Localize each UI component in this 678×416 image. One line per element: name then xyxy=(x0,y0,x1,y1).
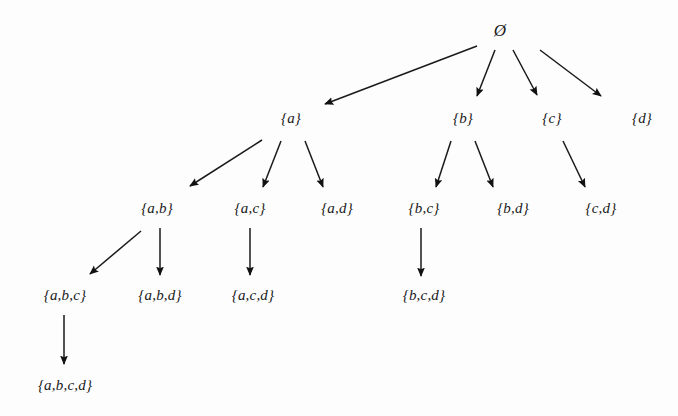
node-d: {d} xyxy=(632,111,652,126)
edge-arrow-a-ac xyxy=(263,141,281,187)
edge-arrow-empty-c xyxy=(513,50,537,95)
node-b: {b} xyxy=(453,111,473,126)
node-acd: {a,c,d} xyxy=(232,288,275,303)
subset-lattice-diagram: Ø{a}{b}{c}{d}{a,b}{a,c}{a,d}{b,c}{b,d}{c… xyxy=(0,0,678,416)
node-bc: {b,c} xyxy=(409,201,440,216)
node-bd: {b,d} xyxy=(497,201,529,216)
edge-arrow-b-bc xyxy=(436,141,451,187)
edge-arrow-a-ab xyxy=(190,140,262,186)
node-bcd: {b,c,d} xyxy=(403,288,446,303)
edge-arrow-b-bd xyxy=(475,141,493,187)
edge-arrow-empty-d xyxy=(540,50,601,96)
node-empty: Ø xyxy=(494,22,506,39)
edge-arrow-a-ad xyxy=(305,141,323,187)
node-c: {c} xyxy=(542,111,561,126)
node-abc: {a,b,c} xyxy=(44,288,87,303)
edge-arrow-empty-b xyxy=(477,50,495,96)
node-ab: {a,b} xyxy=(141,201,173,216)
node-ac: {a,c} xyxy=(235,201,266,216)
edge-arrow-empty-a xyxy=(325,46,477,104)
edge-arrow-ab-abc xyxy=(90,231,141,274)
node-a: {a} xyxy=(281,111,301,126)
node-ad: {a,d} xyxy=(321,201,353,216)
node-abcd: {a,b,c,d} xyxy=(38,378,92,393)
node-abd: {a,b,d} xyxy=(138,288,181,303)
edge-arrow-c-cd xyxy=(563,141,585,187)
node-cd: {c,d} xyxy=(586,201,617,216)
